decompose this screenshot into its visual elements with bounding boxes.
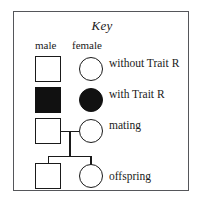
symbol-male-without-trait bbox=[35, 56, 61, 82]
symbol-female-with-trait bbox=[79, 88, 103, 112]
symbol-male-offspring bbox=[35, 163, 61, 189]
column-header-male: male bbox=[35, 39, 56, 51]
pedigree-key-panel: Key male female without Trait R with Tra… bbox=[13, 11, 189, 191]
descent-line bbox=[69, 131, 70, 157]
row-label-without-trait: without Trait R bbox=[109, 57, 179, 69]
row-label-mating: mating bbox=[109, 119, 141, 131]
symbol-female-without-trait bbox=[79, 57, 103, 81]
symbol-male-mating bbox=[35, 118, 61, 144]
symbol-female-offspring bbox=[79, 164, 103, 188]
column-header-female: female bbox=[72, 39, 102, 51]
row-label-with-trait: with Trait R bbox=[109, 88, 165, 100]
sibship-line bbox=[48, 156, 92, 157]
symbol-male-with-trait bbox=[35, 87, 61, 113]
key-title: Key bbox=[14, 18, 190, 34]
row-label-offspring: offspring bbox=[109, 170, 151, 182]
symbol-female-mating bbox=[79, 119, 103, 143]
